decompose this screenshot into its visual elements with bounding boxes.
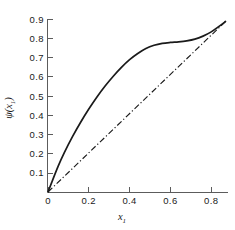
y-axis-title-close: )	[3, 97, 15, 102]
y-tick-label: 0.5	[30, 91, 44, 102]
x-tick-label: 0.8	[204, 195, 218, 206]
x-tick-label: 0.4	[122, 195, 136, 206]
chart-plot-area: 0.9 0.8 0.7 0.6 0.5 0.4 0.3 0.2 0.1 0 0.…	[0, 0, 235, 230]
y-tick-label: 0.9	[30, 14, 44, 25]
y-tick-label: 0.1	[30, 167, 44, 178]
y-axis-title-text: ψ(x	[3, 104, 15, 119]
y-tick-label: 0.3	[30, 129, 44, 140]
y-tick-labels: 0.9 0.8 0.7 0.6 0.5 0.4 0.3 0.2 0.1	[30, 14, 44, 179]
x-axis-title-subscript: 1	[123, 217, 127, 225]
x-tick-label: 0.6	[163, 195, 177, 206]
x-tick-label: 0.2	[82, 195, 96, 206]
chart-figure: 0.9 0.8 0.7 0.6 0.5 0.4 0.3 0.2 0.1 0 0.…	[0, 0, 235, 230]
y-tick-label: 0.2	[30, 148, 44, 159]
y-tick-label: 0.8	[30, 33, 44, 44]
y-tick-label: 0.6	[30, 71, 44, 82]
y-tick-label: 0.4	[30, 110, 44, 121]
x-tick-label: 0	[45, 195, 51, 206]
y-tick-label: 0.7	[30, 52, 44, 63]
